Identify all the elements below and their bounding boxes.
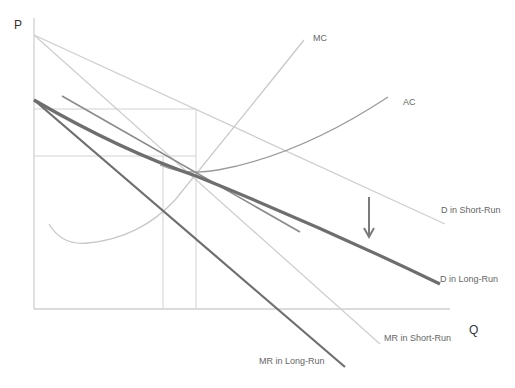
d-short-run-label: D in Short-Run [441, 205, 501, 215]
d-long-run-curve [34, 100, 440, 284]
d-long-run-label: D in Long-Run [440, 274, 498, 284]
economics-diagram [0, 0, 515, 388]
y-axis-label: P [14, 18, 22, 32]
mr-long-run-curve [34, 100, 345, 367]
d-short-run-curve [34, 35, 445, 224]
mr-short-run-curve [34, 35, 380, 344]
mr-short-run-label: MR in Short-Run [384, 333, 451, 343]
d-adjusting-curve [62, 96, 300, 232]
downward-arrow-icon [364, 197, 374, 237]
mr-long-run-label: MR in Long-Run [259, 356, 325, 366]
x-axis-label: Q [469, 323, 478, 337]
mc-label: MC [313, 33, 327, 43]
ac-label: AC [403, 97, 416, 107]
